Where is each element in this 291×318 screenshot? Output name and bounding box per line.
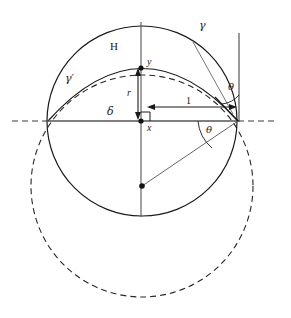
label-angle-theta-upper: θ <box>228 82 234 92</box>
radius-line-lower-center <box>142 121 238 186</box>
diagram-canvas <box>0 0 291 318</box>
label-point-y: y <box>147 57 151 67</box>
label-axis-delta: δ <box>107 106 114 117</box>
unit-arrow-head-left <box>147 104 155 110</box>
label-region-H: H <box>110 41 118 52</box>
label-curve-gamma: γ <box>199 20 206 31</box>
label-point-x: x <box>147 123 151 133</box>
label-curve-gamma-prime: γ′ <box>65 73 74 84</box>
point-apex-y <box>138 65 143 70</box>
label-radius-r: r <box>127 88 131 98</box>
label-angle-theta-lower: θ <box>206 125 212 135</box>
point-origin-x <box>138 118 143 123</box>
geometry-diagram: H γ γ′ δ r x y 1 θ θ <box>0 0 291 318</box>
label-length-one: 1 <box>186 96 191 106</box>
point-lower-center <box>139 183 145 189</box>
arc-gamma-prime <box>48 69 238 122</box>
